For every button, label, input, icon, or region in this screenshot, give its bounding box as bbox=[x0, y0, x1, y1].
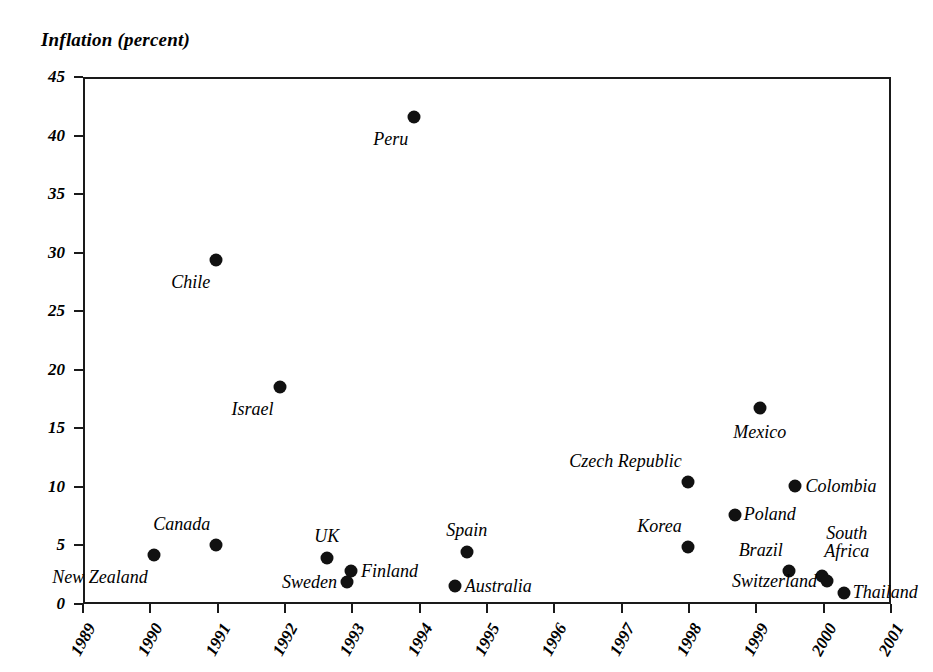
x-axis-tick-label: 1992 bbox=[227, 620, 303, 672]
x-axis-tick-label: 1996 bbox=[496, 620, 572, 672]
x-axis-tick-mark bbox=[284, 604, 286, 613]
y-axis-tick-mark bbox=[74, 486, 83, 488]
y-axis-tick-label: 0 bbox=[25, 594, 65, 614]
y-axis-tick-label: 15 bbox=[25, 418, 65, 438]
data-point-marker bbox=[460, 546, 473, 559]
x-axis-tick-label: 1991 bbox=[159, 620, 235, 672]
data-point-label: Thailand bbox=[853, 583, 918, 601]
data-point-label: Colombia bbox=[805, 477, 876, 495]
y-axis-tick-mark bbox=[74, 427, 83, 429]
y-axis-tick-mark bbox=[74, 135, 83, 137]
data-point-marker bbox=[210, 539, 223, 552]
x-axis-tick-mark bbox=[486, 604, 488, 613]
x-axis-tick-label: 1997 bbox=[563, 620, 639, 672]
data-point-label: Brazil bbox=[739, 541, 783, 559]
data-point-label: Chile bbox=[171, 273, 210, 291]
data-point-marker bbox=[210, 253, 223, 266]
data-point-marker bbox=[728, 508, 741, 521]
x-axis-tick-label: 1995 bbox=[429, 620, 505, 672]
data-point-label: Israel bbox=[232, 400, 274, 418]
data-point-label: Switzerland bbox=[732, 571, 817, 589]
data-point-marker bbox=[681, 540, 694, 553]
y-axis-tick-mark bbox=[74, 369, 83, 371]
y-axis-tick-label: 5 bbox=[25, 535, 65, 555]
x-axis-tick-mark bbox=[621, 604, 623, 613]
x-axis-tick-label: 1990 bbox=[92, 620, 168, 672]
x-axis-tick-mark bbox=[755, 604, 757, 613]
x-axis-tick-mark bbox=[890, 604, 892, 613]
x-axis-tick-label: 1994 bbox=[361, 620, 437, 672]
data-point-label: Spain bbox=[446, 521, 487, 539]
x-axis-tick-mark bbox=[553, 604, 555, 613]
scatter-chart-figure: Inflation (percent) 051015202530354045 1… bbox=[0, 0, 933, 672]
x-axis-tick-label: 1998 bbox=[631, 620, 707, 672]
data-point-label: Czech Republic bbox=[569, 452, 681, 470]
x-axis-tick-label: 1993 bbox=[294, 620, 370, 672]
x-axis-tick-mark bbox=[419, 604, 421, 613]
x-axis-tick-label: 1999 bbox=[698, 620, 774, 672]
x-axis-tick-mark bbox=[688, 604, 690, 613]
data-point-marker bbox=[789, 479, 802, 492]
data-point-marker bbox=[681, 476, 694, 489]
y-axis-tick-label: 30 bbox=[25, 243, 65, 263]
y-axis-tick-label: 20 bbox=[25, 360, 65, 380]
data-point-label: Peru bbox=[373, 130, 408, 148]
data-point-marker bbox=[340, 575, 353, 588]
data-point-marker bbox=[753, 402, 766, 415]
y-axis-tick-label: 25 bbox=[25, 301, 65, 321]
data-point-marker bbox=[821, 574, 834, 587]
y-axis-tick-mark bbox=[74, 76, 83, 78]
data-point-label: Mexico bbox=[733, 423, 786, 441]
data-point-label: Poland bbox=[744, 505, 796, 523]
data-point-label: Korea bbox=[637, 516, 681, 534]
chart-axis-title: Inflation (percent) bbox=[41, 29, 190, 51]
data-point-marker bbox=[147, 548, 160, 561]
y-axis-tick-label: 45 bbox=[25, 67, 65, 87]
y-axis-tick-label: 40 bbox=[25, 126, 65, 146]
x-axis-tick-mark bbox=[82, 604, 84, 613]
x-axis-tick-label: 1989 bbox=[25, 620, 101, 672]
data-point-marker bbox=[320, 552, 333, 565]
data-point-marker bbox=[273, 381, 286, 394]
data-point-marker bbox=[448, 580, 461, 593]
x-axis-tick-label: 2001 bbox=[833, 620, 909, 672]
data-point-marker bbox=[408, 110, 421, 123]
y-axis-tick-label: 10 bbox=[25, 477, 65, 497]
data-point-label: Finland bbox=[361, 562, 418, 580]
x-axis-tick-mark bbox=[351, 604, 353, 613]
y-axis-tick-mark bbox=[74, 544, 83, 546]
x-axis-tick-mark bbox=[823, 604, 825, 613]
data-point-label: New Zealand bbox=[52, 568, 148, 586]
x-axis-tick-label: 2000 bbox=[765, 620, 841, 672]
data-point-label: Sweden bbox=[282, 573, 337, 591]
y-axis-tick-label: 35 bbox=[25, 184, 65, 204]
data-point-label: Canada bbox=[153, 515, 210, 533]
data-point-marker bbox=[837, 587, 850, 600]
y-axis-tick-mark bbox=[74, 310, 83, 312]
y-axis-tick-mark bbox=[74, 193, 83, 195]
x-axis-tick-mark bbox=[149, 604, 151, 613]
y-axis-tick-mark bbox=[74, 252, 83, 254]
data-point-label: SouthAfrica bbox=[824, 524, 869, 561]
data-point-label: Australia bbox=[465, 577, 532, 595]
x-axis-tick-mark bbox=[217, 604, 219, 613]
data-point-label: UK bbox=[314, 527, 339, 545]
